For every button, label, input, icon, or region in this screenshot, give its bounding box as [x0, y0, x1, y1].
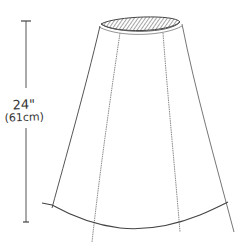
waistband	[99, 17, 182, 35]
measurement-cm: (61cm)	[3, 112, 45, 126]
skirt-diagram: 24" (61cm)	[0, 0, 248, 252]
skirt-outline	[42, 24, 234, 242]
measurement-label: 24" (61cm)	[3, 97, 46, 125]
skirt-sketch	[0, 0, 248, 252]
